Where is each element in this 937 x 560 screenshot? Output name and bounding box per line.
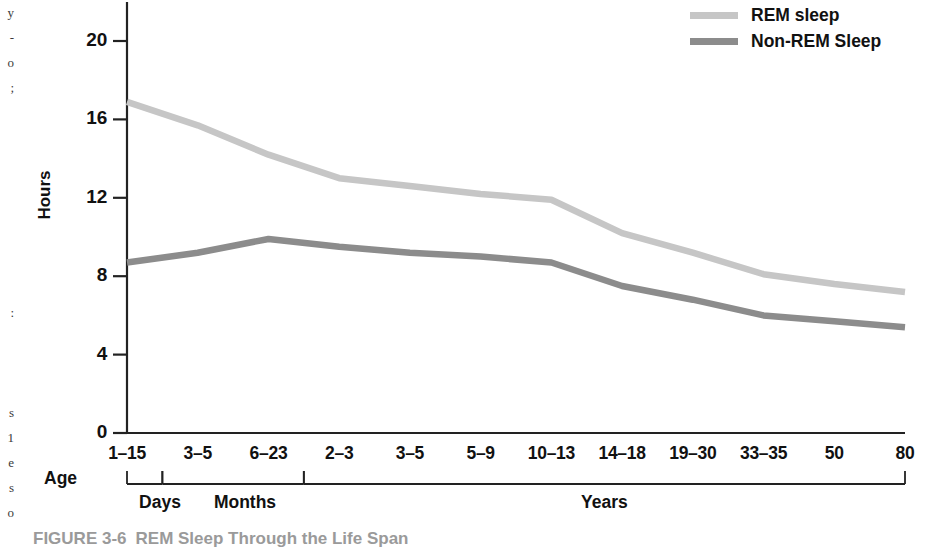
chart-legend: REM sleepNon-REM Sleep [690,2,930,54]
x-axis-tick-label: 19–30 [669,443,716,464]
figure-caption-title: REM Sleep Through the Life Span [136,529,409,548]
series-lines [127,102,905,327]
x-axis-tick-label: 80 [896,443,915,464]
group-label-days: Days [139,492,181,513]
x-axis-tick-label: 2–3 [325,443,353,464]
figure-caption-number: FIGURE 3-6 [33,529,127,548]
legend-item-non-rem-sleep: Non-REM Sleep [690,28,930,54]
group-label-months: Months [214,492,276,513]
plot-svg [0,0,937,560]
x-axis-tick-label: 6–23 [250,443,288,464]
x-axis-tick-label: 10–13 [528,443,575,464]
x-axis-tick-label: 50 [825,443,844,464]
group-bracket-lines [127,471,905,484]
axis-lines [127,2,905,433]
figure-caption: FIGURE 3-6REM Sleep Through the Life Spa… [33,529,409,549]
legend-item-rem-sleep: REM sleep [690,2,930,28]
x-axis-tick-label: 5–9 [466,443,494,464]
legend-label: Non-REM Sleep [751,31,881,52]
x-axis-tick-label: 3–5 [396,443,424,464]
x-axis-tick-label: 14–18 [598,443,645,464]
x-axis-tick-label: 1–15 [108,443,146,464]
chart-area: Hours 048121620 REM sleepNon-REM Sleep 1… [0,0,937,560]
group-label-years: Years [581,492,628,513]
x-axis-tick-label: 3–5 [184,443,212,464]
legend-swatch [690,12,738,19]
y-axis-ticks [113,41,127,433]
age-axis-label: Age [44,468,77,489]
legend-swatch [690,38,738,45]
x-axis-tick-label: 33–35 [740,443,787,464]
legend-label: REM sleep [751,5,840,26]
